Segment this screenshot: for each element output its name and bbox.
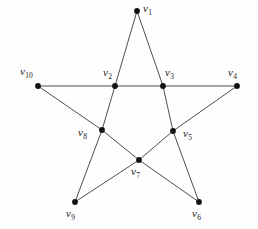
vertex-label-subscript-v8: 8 bbox=[83, 132, 87, 141]
graph-edge-v4-v5 bbox=[173, 86, 237, 131]
vertex-label-v10: v10 bbox=[20, 66, 32, 77]
graph-edge-v10-v8 bbox=[38, 86, 102, 130]
graph-canvas bbox=[0, 0, 258, 229]
vertex-label-v7: v7 bbox=[131, 166, 140, 177]
graph-vertex-v9 bbox=[72, 199, 78, 205]
vertex-label-v5: v5 bbox=[183, 128, 192, 139]
vertex-label-subscript-v2: 2 bbox=[108, 72, 112, 81]
graph-edge-v3-v5 bbox=[163, 86, 173, 131]
vertex-label-v6: v6 bbox=[192, 208, 201, 219]
graph-vertex-v10 bbox=[35, 83, 41, 89]
vertex-label-v4: v4 bbox=[228, 67, 237, 78]
vertex-label-subscript-v6: 6 bbox=[197, 213, 201, 222]
graph-edge-v1-v3 bbox=[137, 11, 163, 86]
graph-vertex-v4 bbox=[234, 83, 240, 89]
vertex-label-subscript-v5: 5 bbox=[188, 133, 192, 142]
vertex-label-subscript-v1: 1 bbox=[148, 8, 152, 17]
vertex-label-v1: v1 bbox=[143, 3, 152, 14]
graph-vertex-v7 bbox=[136, 157, 142, 163]
vertex-label-v3: v3 bbox=[165, 67, 174, 78]
graph-vertex-v5 bbox=[170, 128, 176, 134]
graph-edge-v8-v7 bbox=[102, 130, 139, 160]
graph-vertex-v6 bbox=[196, 199, 202, 205]
graph-edge-v9-v7 bbox=[75, 160, 139, 202]
vertex-label-v8: v8 bbox=[78, 127, 87, 138]
graph-edge-v7-v6 bbox=[139, 160, 199, 202]
vertex-label-subscript-v3: 3 bbox=[170, 72, 174, 81]
vertex-label-subscript-v9: 9 bbox=[71, 213, 75, 222]
graph-vertex-v8 bbox=[99, 127, 105, 133]
vertex-label-subscript-v4: 4 bbox=[233, 72, 237, 81]
graph-edge-v2-v8 bbox=[102, 86, 115, 130]
graph-vertex-v1 bbox=[134, 8, 140, 14]
graph-vertex-v2 bbox=[112, 83, 118, 89]
vertex-label-subscript-v7: 7 bbox=[136, 171, 140, 180]
star-graph-figure: v1v2v3v4v5v6v7v8v9v10 bbox=[0, 0, 258, 229]
graph-edge-v7-v5 bbox=[139, 131, 173, 160]
graph-vertex-v3 bbox=[160, 83, 166, 89]
vertex-label-v9: v9 bbox=[66, 208, 75, 219]
vertex-label-v2: v2 bbox=[103, 67, 112, 78]
vertex-label-subscript-v10: 10 bbox=[25, 71, 33, 80]
graph-edge-v8-v9 bbox=[75, 130, 102, 202]
graph-edge-v1-v2 bbox=[115, 11, 137, 86]
graph-edge-v5-v6 bbox=[173, 131, 199, 202]
